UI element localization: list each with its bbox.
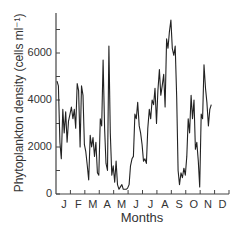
month-label: O [189, 198, 198, 210]
phytoplankton-chart: Phytoplankton density (cells ml⁻¹) 0 200… [0, 0, 239, 234]
month-label: A [161, 198, 169, 210]
y-tick-label-4000: 4000 [28, 93, 52, 105]
month-label: D [219, 198, 227, 210]
month-label: J [133, 198, 139, 210]
month-label: S [176, 198, 183, 210]
x-tick-labels: JFMAMJJASOND [61, 198, 226, 210]
month-label: A [104, 198, 112, 210]
y-tick-label-6000: 6000 [28, 46, 52, 58]
y-axis-title: Phytoplankton density (cells ml⁻¹) [12, 14, 26, 193]
density-series-line [57, 20, 211, 189]
y-tick-label-0: 0 [46, 187, 52, 199]
month-label: J [148, 198, 154, 210]
month-label: F [75, 198, 82, 210]
y-tick-label-2000: 2000 [28, 140, 52, 152]
month-label: M [88, 198, 97, 210]
month-label: J [61, 198, 67, 210]
x-axis-title: Months [121, 210, 164, 225]
month-label: N [204, 198, 212, 210]
month-label: M [117, 198, 126, 210]
